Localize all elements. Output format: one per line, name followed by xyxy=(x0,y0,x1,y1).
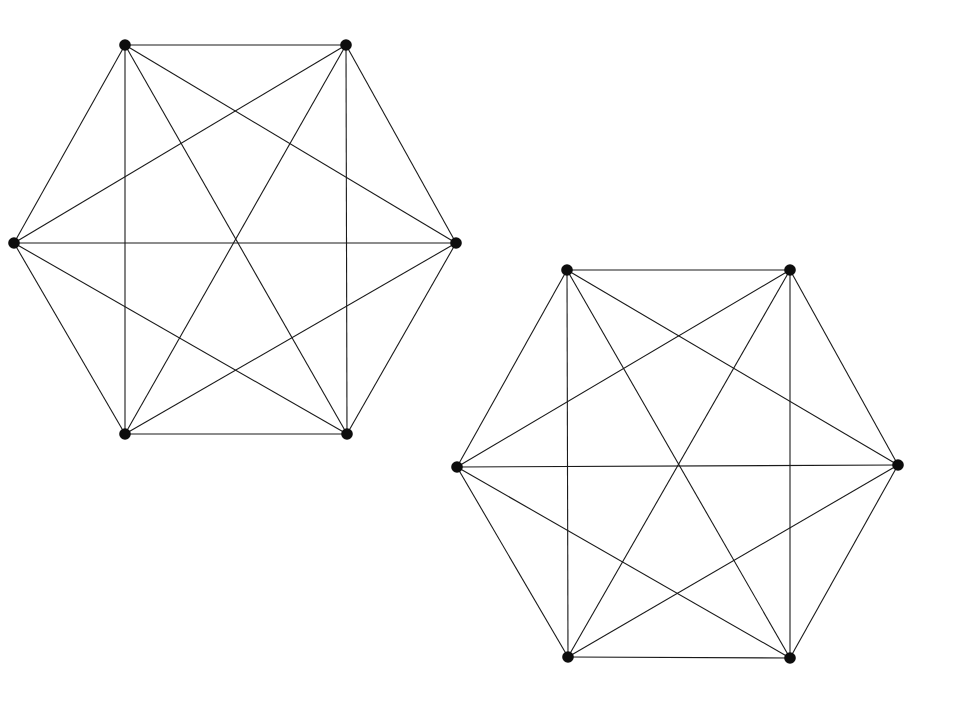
graph-vertex xyxy=(119,428,131,440)
graph-vertex xyxy=(562,651,574,663)
graph-vertex xyxy=(451,461,463,473)
graph-vertex xyxy=(561,264,573,276)
canvas-background xyxy=(0,0,970,705)
graph-diagram-canvas xyxy=(0,0,970,705)
graph-vertex xyxy=(784,264,796,276)
graph-vertex xyxy=(8,237,20,249)
graph-vertex xyxy=(341,428,353,440)
graph-vertex xyxy=(892,459,904,471)
graph-vertex xyxy=(784,652,796,664)
graph-vertex xyxy=(340,39,352,51)
graph-vertex xyxy=(119,39,131,51)
graph-vertex xyxy=(450,237,462,249)
